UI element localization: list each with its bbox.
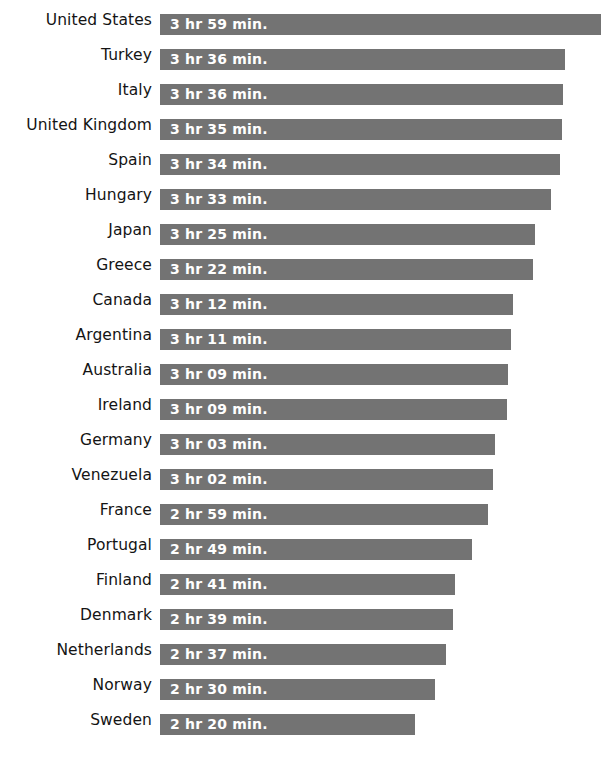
category-label: Japan <box>0 219 152 241</box>
chart-rows: United States3 hr 59 min.Turkey3 hr 36 m… <box>0 0 610 735</box>
bar: 3 hr 22 min. <box>160 259 533 280</box>
chart-row: Venezuela3 hr 02 min. <box>0 455 610 490</box>
bar-chart: United States3 hr 59 min.Turkey3 hr 36 m… <box>0 0 610 763</box>
bar-value-label: 2 hr 30 min. <box>170 679 268 700</box>
bar-value-label: 2 hr 39 min. <box>170 609 268 630</box>
category-label: Germany <box>0 429 152 451</box>
bar-value-label: 3 hr 33 min. <box>170 189 268 210</box>
chart-row: Sweden2 hr 20 min. <box>0 700 610 735</box>
chart-row: Australia3 hr 09 min. <box>0 350 610 385</box>
category-label: Denmark <box>0 604 152 626</box>
bar: 2 hr 20 min. <box>160 714 415 735</box>
bar-value-label: 3 hr 35 min. <box>170 119 268 140</box>
bar-value-label: 3 hr 34 min. <box>170 154 268 175</box>
bar: 3 hr 59 min. <box>160 14 601 35</box>
category-label: Portugal <box>0 534 152 556</box>
chart-row: United States3 hr 59 min. <box>0 0 610 35</box>
bar: 3 hr 09 min. <box>160 364 508 385</box>
chart-row: Netherlands2 hr 37 min. <box>0 630 610 665</box>
bar: 2 hr 41 min. <box>160 574 455 595</box>
category-label: United Kingdom <box>0 114 152 136</box>
bar: 2 hr 30 min. <box>160 679 435 700</box>
category-label: Hungary <box>0 184 152 206</box>
chart-row: Argentina3 hr 11 min. <box>0 315 610 350</box>
bar: 3 hr 34 min. <box>160 154 560 175</box>
category-label: Australia <box>0 359 152 381</box>
chart-row: Japan3 hr 25 min. <box>0 210 610 245</box>
bar-value-label: 2 hr 20 min. <box>170 714 268 735</box>
bar: 2 hr 49 min. <box>160 539 472 560</box>
category-label: Italy <box>0 79 152 101</box>
category-label: Canada <box>0 289 152 311</box>
bar: 3 hr 35 min. <box>160 119 562 140</box>
bar-value-label: 3 hr 25 min. <box>170 224 268 245</box>
category-label: United States <box>0 9 152 31</box>
bar-value-label: 3 hr 22 min. <box>170 259 268 280</box>
category-label: Sweden <box>0 709 152 731</box>
bar: 3 hr 36 min. <box>160 84 563 105</box>
bar-value-label: 3 hr 59 min. <box>170 14 268 35</box>
chart-row: Denmark2 hr 39 min. <box>0 595 610 630</box>
bar-value-label: 2 hr 49 min. <box>170 539 268 560</box>
bar-value-label: 3 hr 12 min. <box>170 294 268 315</box>
chart-row: Norway2 hr 30 min. <box>0 665 610 700</box>
chart-row: United Kingdom3 hr 35 min. <box>0 105 610 140</box>
bar-value-label: 3 hr 36 min. <box>170 84 268 105</box>
category-label: Spain <box>0 149 152 171</box>
category-label: Argentina <box>0 324 152 346</box>
bar: 3 hr 25 min. <box>160 224 535 245</box>
category-label: Greece <box>0 254 152 276</box>
bar: 3 hr 36 min. <box>160 49 565 70</box>
chart-row: Turkey3 hr 36 min. <box>0 35 610 70</box>
bar: 2 hr 37 min. <box>160 644 446 665</box>
chart-row: Hungary3 hr 33 min. <box>0 175 610 210</box>
category-label: Turkey <box>0 44 152 66</box>
chart-row: Spain3 hr 34 min. <box>0 140 610 175</box>
bar: 3 hr 02 min. <box>160 469 493 490</box>
bar-value-label: 3 hr 09 min. <box>170 364 268 385</box>
chart-row: Canada3 hr 12 min. <box>0 280 610 315</box>
bar: 2 hr 39 min. <box>160 609 453 630</box>
bar: 3 hr 11 min. <box>160 329 511 350</box>
bar: 3 hr 03 min. <box>160 434 495 455</box>
bar-value-label: 3 hr 02 min. <box>170 469 268 490</box>
chart-row: France2 hr 59 min. <box>0 490 610 525</box>
bar-value-label: 2 hr 59 min. <box>170 504 268 525</box>
bar: 3 hr 09 min. <box>160 399 507 420</box>
bar-value-label: 3 hr 11 min. <box>170 329 268 350</box>
bar: 3 hr 33 min. <box>160 189 551 210</box>
bar: 2 hr 59 min. <box>160 504 488 525</box>
bar-value-label: 2 hr 41 min. <box>170 574 268 595</box>
bar-value-label: 3 hr 03 min. <box>170 434 268 455</box>
chart-row: Portugal2 hr 49 min. <box>0 525 610 560</box>
bar-value-label: 2 hr 37 min. <box>170 644 268 665</box>
category-label: Ireland <box>0 394 152 416</box>
chart-row: Greece3 hr 22 min. <box>0 245 610 280</box>
category-label: Netherlands <box>0 639 152 661</box>
category-label: Finland <box>0 569 152 591</box>
chart-row: Italy3 hr 36 min. <box>0 70 610 105</box>
chart-row: Ireland3 hr 09 min. <box>0 385 610 420</box>
category-label: France <box>0 499 152 521</box>
category-label: Norway <box>0 674 152 696</box>
category-label: Venezuela <box>0 464 152 486</box>
bar: 3 hr 12 min. <box>160 294 513 315</box>
bar-value-label: 3 hr 36 min. <box>170 49 268 70</box>
chart-row: Finland2 hr 41 min. <box>0 560 610 595</box>
chart-row: Germany3 hr 03 min. <box>0 420 610 455</box>
bar-value-label: 3 hr 09 min. <box>170 399 268 420</box>
